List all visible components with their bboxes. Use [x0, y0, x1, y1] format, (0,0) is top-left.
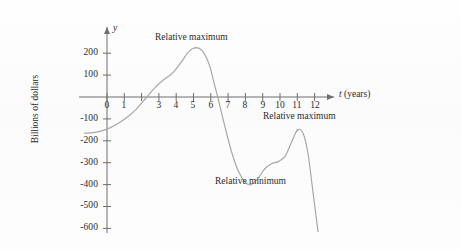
plot-canvas [0, 0, 461, 249]
x-tick-label-6: 6 [203, 101, 219, 111]
y-tick-label--300: -300 [62, 158, 98, 168]
x-tick-label-9: 9 [255, 101, 271, 111]
extremum-marker-2 [296, 129, 298, 131]
budget-curve [85, 48, 319, 232]
y-tick-label--200: -200 [62, 136, 98, 146]
relative-maximum-2-label: Relative maximum [263, 112, 336, 122]
x-axis-arrowhead [327, 94, 334, 100]
x-tick-label-1: 1 [116, 101, 132, 111]
x-tick-label-11: 11 [289, 101, 305, 111]
x-axis-variable-label: t (years) [339, 90, 370, 100]
relative-minimum-1-label: Relative minimum [215, 177, 286, 187]
y-tick-label--600: -600 [62, 223, 98, 233]
y-tick-label--500: -500 [62, 201, 98, 211]
x-tick-label-5: 5 [185, 101, 201, 111]
x-tick-label-8: 8 [237, 101, 253, 111]
graph-figure: 0 1 3 4 5 6 7 8 9 10 11 12 200 100 -100 … [0, 0, 461, 249]
y-tick-label--400: -400 [62, 180, 98, 190]
y-axis-title: Billions of dollars [30, 44, 40, 174]
x-tick-label-3: 3 [151, 101, 167, 111]
y-tick-label-200: 200 [62, 48, 98, 58]
y-tick-label--100: -100 [62, 114, 98, 124]
x-axis-unit-text: (years) [342, 89, 371, 99]
y-axis-variable-label: y [113, 24, 117, 34]
extremum-marker-0 [194, 47, 196, 49]
x-tick-label-4: 4 [168, 101, 184, 111]
x-tick-label-7: 7 [220, 101, 236, 111]
x-tick-label-12: 12 [307, 101, 323, 111]
x-tick-label-10: 10 [272, 101, 288, 111]
y-axis-variable-text: y [113, 23, 117, 33]
y-tick-label-100: 100 [62, 70, 98, 80]
relative-maximum-1-label: Relative maximum [155, 33, 228, 43]
x-tick-label-0: 0 [99, 101, 115, 111]
y-axis-arrowhead [104, 27, 110, 34]
